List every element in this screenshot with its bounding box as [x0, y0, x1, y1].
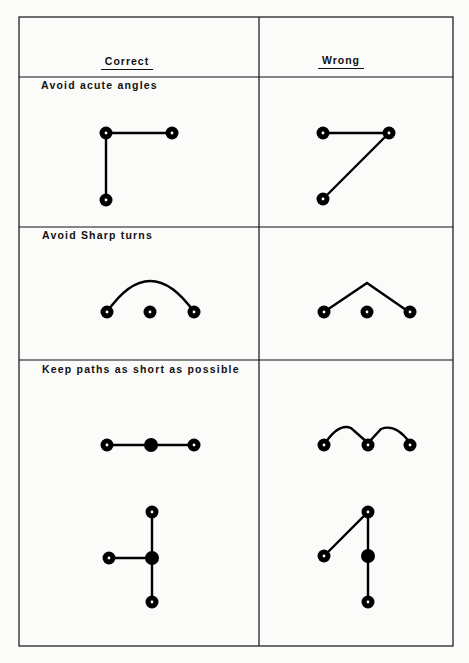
row-label-short-paths: Keep paths as short as possible [42, 363, 240, 375]
header-wrong: Wrong [318, 54, 364, 69]
header-correct: Correct [101, 55, 153, 70]
table-grid [0, 0, 469, 663]
row-label-acute-angles: Avoid acute angles [41, 79, 158, 91]
row-label-sharp-turns: Avoid Sharp turns [42, 229, 153, 241]
acute-angle-path [323, 133, 389, 199]
right-angle-path [106, 133, 172, 200]
